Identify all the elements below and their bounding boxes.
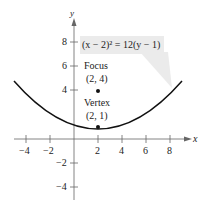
y-tick-label: −4	[56, 181, 67, 192]
x-tick-label: 6	[143, 145, 148, 156]
y-tick-label: 6	[62, 60, 67, 71]
focus-label: Focus	[84, 60, 108, 71]
vertex-point	[96, 125, 100, 129]
x-tick-label: −2	[43, 145, 54, 156]
equation-label: (x − 2)² = 12(y − 1)	[82, 39, 160, 50]
y-tick-label: 4	[62, 84, 67, 95]
x-tick-label: 4	[119, 145, 124, 156]
focus-coord-label: (2, 4)	[86, 73, 108, 84]
y-axis-arrow-icon	[72, 18, 77, 26]
callout-pointer	[140, 52, 172, 88]
vertex-label: Vertex	[84, 97, 110, 108]
x-axis-label: x	[193, 133, 197, 144]
focus-point	[96, 89, 100, 93]
parabola-chart: y x (x − 2)² = 12(y − 1) Focus (2, 4) Ve…	[0, 0, 204, 210]
y-tick-label: −2	[56, 157, 67, 168]
y-tick-label: 8	[62, 36, 67, 47]
x-tick-label: −4	[19, 145, 30, 156]
y-axis-label: y	[70, 8, 74, 19]
x-tick-label: 2	[95, 145, 100, 156]
x-tick-label: 8	[167, 145, 172, 156]
vertex-coord-label: (2, 1)	[86, 110, 108, 121]
x-axis-arrow-icon	[184, 137, 192, 142]
